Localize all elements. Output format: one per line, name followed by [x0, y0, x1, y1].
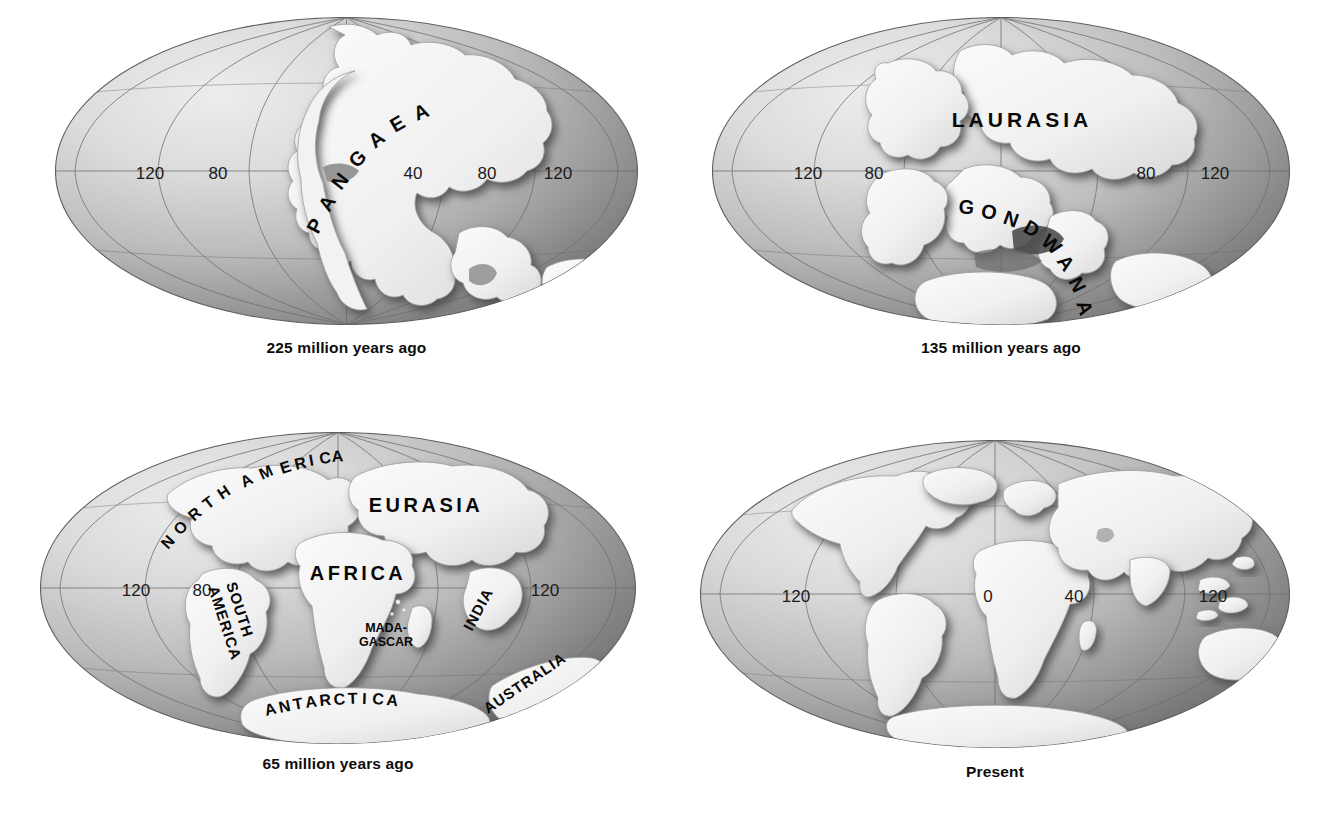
arc-char: C: [372, 690, 385, 708]
tick-label: 120: [136, 164, 164, 183]
tick-label: 40: [1065, 587, 1084, 606]
globe-present: 120 0 40 120: [700, 440, 1290, 748]
tick-label: 80: [1137, 164, 1156, 183]
globe-65ma: 120 80 120 N O R T H A M E R I C A EURAS…: [40, 432, 636, 744]
arc-char: I: [362, 690, 367, 707]
globe-225ma: 120 80 40 80 120 P A N G A E A: [55, 17, 638, 325]
tick-label: 120: [1201, 164, 1229, 183]
tick-label: 0: [983, 587, 992, 606]
label-madagascar-line1: MADA-: [365, 621, 407, 635]
label-madagascar-line2: GASCAR: [359, 635, 413, 649]
caption-225ma: 225 million years ago: [55, 339, 638, 357]
arc-char: A: [331, 447, 344, 465]
globe-panel-135ma: 120 80 80 120 LAURASIA G O N D W A N A: [712, 17, 1290, 325]
tick-label: 40: [404, 164, 423, 183]
arc-char: A: [386, 691, 400, 709]
arc-char: G: [958, 195, 976, 219]
arc-char: T: [348, 690, 359, 707]
tick-label: 80: [209, 164, 228, 183]
tick-label: 80: [865, 164, 884, 183]
label-laurasia: LAURASIA: [952, 108, 1093, 131]
tick-label: 120: [1199, 587, 1227, 606]
caption-65ma: 65 million years ago: [40, 755, 636, 773]
label-africa: AFRICA: [310, 562, 407, 584]
globe-135ma: 120 80 80 120 LAURASIA G O N D W A N A: [712, 17, 1290, 325]
tick-label: 120: [531, 581, 559, 600]
globe-panel-225ma: 120 80 40 80 120 P A N G A E A: [55, 17, 638, 325]
arc-char: R: [319, 691, 333, 709]
label-eurasia: EURASIA: [369, 494, 484, 516]
caption-135ma: 135 million years ago: [712, 339, 1290, 357]
figure-canvas: 120 80 40 80 120 P A N G A E A 225 milli…: [0, 0, 1328, 814]
tick-label: 120: [794, 164, 822, 183]
globe-panel-present: 120 0 40 120: [700, 440, 1290, 748]
arc-char: C: [333, 690, 346, 708]
tick-label: 120: [544, 164, 572, 183]
caption-present: Present: [700, 763, 1290, 781]
tick-label: 120: [782, 587, 810, 606]
tick-label: 120: [122, 581, 150, 600]
globe-panel-65ma: 120 80 120 N O R T H A M E R I C A EURAS…: [40, 432, 636, 744]
tick-label: 80: [478, 164, 497, 183]
